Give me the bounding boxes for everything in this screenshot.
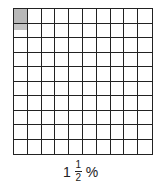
- grid-cell: [124, 82, 138, 97]
- grid-cell: [14, 24, 28, 39]
- grid-cell: [138, 140, 152, 155]
- grid-cell: [97, 38, 111, 53]
- whole-number: 1: [63, 164, 71, 180]
- grid-cell: [55, 82, 69, 97]
- grid-cell: [42, 53, 56, 68]
- grid-cell: [138, 111, 152, 126]
- grid-cell: [138, 53, 152, 68]
- grid-cell: [111, 53, 125, 68]
- grid-cell: [55, 67, 69, 82]
- grid-cell: [83, 9, 97, 24]
- grid-cell: [124, 140, 138, 155]
- grid-cell: [28, 140, 42, 155]
- grid-cell: [14, 38, 28, 53]
- grid-cell: [69, 125, 83, 140]
- grid-cell: [69, 96, 83, 111]
- grid-cell: [69, 53, 83, 68]
- grid-cell: [55, 9, 69, 24]
- hundred-grid: [13, 8, 153, 155]
- fraction: 1 2: [75, 160, 82, 183]
- grid-cell: [138, 9, 152, 24]
- grid-cell: [42, 140, 56, 155]
- grid-cell: [14, 140, 28, 155]
- grid-cell: [42, 111, 56, 126]
- grid-cell: [111, 38, 125, 53]
- grid-cell: [14, 111, 28, 126]
- grid-cell: [55, 96, 69, 111]
- grid-cell: [83, 125, 97, 140]
- grid-cell: [97, 67, 111, 82]
- grid-cell: [83, 24, 97, 39]
- grid-cell: [69, 67, 83, 82]
- grid-cell: [138, 38, 152, 53]
- grid-cell: [28, 53, 42, 68]
- grid-cell: [83, 111, 97, 126]
- grid-cell: [14, 67, 28, 82]
- grid-cell: [138, 67, 152, 82]
- grid-cell: [42, 96, 56, 111]
- grid-cell: [28, 82, 42, 97]
- grid-cell: [28, 125, 42, 140]
- grid-cell: [138, 24, 152, 39]
- grid-cell: [124, 9, 138, 24]
- grid-cell: [42, 67, 56, 82]
- grid-cell: [42, 125, 56, 140]
- grid-cell: [69, 24, 83, 39]
- grid-cell: [55, 111, 69, 126]
- grid-cell: [97, 82, 111, 97]
- grid-cell: [42, 38, 56, 53]
- grid-cell: [69, 9, 83, 24]
- grid-cell: [97, 111, 111, 126]
- grid-cell: [124, 125, 138, 140]
- grid-cell: [124, 53, 138, 68]
- grid-cell: [14, 9, 28, 24]
- grid-cell: [97, 53, 111, 68]
- grid-cell: [97, 96, 111, 111]
- grid-cell: [83, 140, 97, 155]
- grid-cell: [124, 96, 138, 111]
- grid-cell: [124, 67, 138, 82]
- grid-cell: [83, 82, 97, 97]
- half-shade: [14, 24, 27, 31]
- grid-cell: [97, 125, 111, 140]
- grid-cell: [124, 38, 138, 53]
- grid-cell: [69, 140, 83, 155]
- grid-cell: [111, 140, 125, 155]
- grid-cell: [55, 24, 69, 39]
- grid-cell: [111, 9, 125, 24]
- fraction-denominator: 2: [75, 173, 81, 183]
- grid-cell: [14, 125, 28, 140]
- grid-cell: [69, 111, 83, 126]
- grid-cell: [111, 111, 125, 126]
- grid-cell: [28, 24, 42, 39]
- grid-cell: [69, 38, 83, 53]
- grid-cell: [42, 24, 56, 39]
- grid-cell: [14, 53, 28, 68]
- grid-cell: [28, 9, 42, 24]
- grid-cell: [83, 96, 97, 111]
- grid-cell: [138, 125, 152, 140]
- grid-cell: [14, 82, 28, 97]
- grid-cell: [138, 82, 152, 97]
- grid-cell: [97, 9, 111, 24]
- grid-cell: [97, 24, 111, 39]
- grid-cell: [28, 111, 42, 126]
- grid-cell: [111, 82, 125, 97]
- grid-cell: [124, 111, 138, 126]
- grid-cell: [111, 24, 125, 39]
- grid-cell: [69, 82, 83, 97]
- grid-cell: [55, 125, 69, 140]
- grid-cell: [28, 96, 42, 111]
- grid-cell: [42, 9, 56, 24]
- grid-cell: [111, 96, 125, 111]
- grid-cell: [42, 82, 56, 97]
- percent-sign: %: [86, 164, 98, 180]
- percent-label: 1 1 2 %: [0, 160, 161, 183]
- grid-cell: [97, 140, 111, 155]
- grid-cell: [83, 67, 97, 82]
- grid-cell: [138, 96, 152, 111]
- grid-cell: [28, 38, 42, 53]
- grid-cell: [111, 67, 125, 82]
- fraction-numerator: 1: [75, 160, 81, 170]
- grid-cell: [28, 67, 42, 82]
